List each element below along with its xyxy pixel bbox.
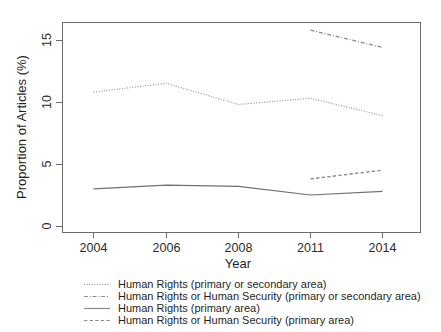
x-axis-tick-labels: 2004 2006 2008 2011 2014 — [80, 241, 397, 255]
legend-label-0: Human Rights (primary or secondary area) — [118, 278, 326, 290]
series-line-hr-or-hs-primary — [311, 170, 383, 179]
y-tick-label-15: 15 — [40, 33, 54, 47]
x-axis-ticks — [94, 232, 383, 238]
x-tick-label-2004: 2004 — [80, 241, 108, 255]
series-line-human-rights-primary-or-secondary — [94, 83, 383, 115]
chart-legend: Human Rights (primary or secondary area)… — [84, 278, 421, 326]
x-tick-label-2014: 2014 — [369, 241, 397, 255]
legend-label-1: Human Rights or Human Security (primary … — [118, 290, 421, 302]
x-tick-label-2008: 2008 — [225, 241, 253, 255]
series-group — [94, 30, 383, 195]
line-chart: 0 5 10 15 Proportion of Articles (%) 200… — [0, 0, 441, 332]
y-axis-tick-labels: 0 5 10 15 — [40, 33, 54, 229]
y-tick-label-10: 10 — [40, 95, 54, 109]
y-tick-label-5: 5 — [40, 160, 54, 167]
x-tick-label-2011: 2011 — [297, 241, 324, 255]
series-line-hr-or-hs-primary-or-secondary — [311, 30, 383, 47]
chart-figure: 0 5 10 15 Proportion of Articles (%) 200… — [0, 0, 441, 332]
y-axis-title: Proportion of Articles (%) — [14, 55, 29, 199]
legend-label-2: Human Rights (primary area) — [118, 302, 260, 314]
x-tick-label-2006: 2006 — [153, 241, 181, 255]
y-tick-label-0: 0 — [40, 222, 54, 229]
y-axis-ticks — [56, 41, 62, 227]
legend-label-3: Human Rights or Human Security (primary … — [118, 314, 354, 326]
x-axis-title: Year — [225, 256, 252, 271]
plot-frame — [62, 22, 420, 232]
series-line-human-rights-primary — [94, 185, 383, 195]
